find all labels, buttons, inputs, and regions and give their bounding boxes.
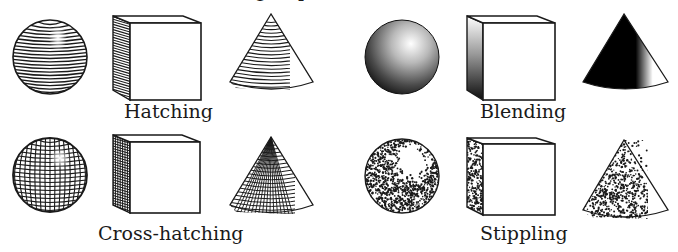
shading-techniques-diagram: g p Hatching [0, 0, 678, 252]
label-cross-hatching: Cross-hatching [98, 222, 244, 244]
title-fragment-g: g [255, 0, 267, 1]
cross-hatched-cone [225, 137, 318, 218]
hatched-sphere [13, 20, 87, 96]
panel-hatching: Hatching [13, 14, 318, 122]
stippled-cube [466, 137, 555, 216]
panel-cross-hatching: Cross-hatching [10, 130, 319, 244]
label-stippling: Stippling [480, 222, 568, 244]
panel-blending: Blending [365, 14, 668, 122]
cross-hatched-sphere [10, 138, 91, 215]
title-fragment-p: p [298, 0, 310, 1]
title-fragment: g p [255, 0, 310, 1]
stippled-sphere [364, 138, 440, 214]
hatched-cube [113, 14, 201, 105]
label-hatching: Hatching [124, 100, 213, 122]
cross-hatched-cube [113, 130, 200, 219]
blended-cone [583, 14, 668, 89]
blended-cube [467, 16, 555, 100]
label-blending: Blending [480, 100, 566, 122]
panel-stippling: Stippling [364, 137, 668, 244]
blended-sphere [365, 20, 439, 94]
stippled-cone [582, 139, 668, 221]
hatched-cone [225, 14, 318, 94]
